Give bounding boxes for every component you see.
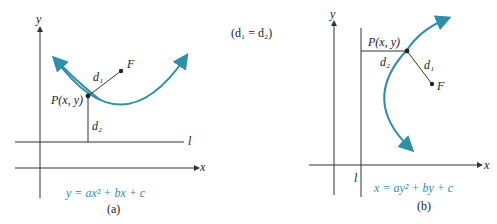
focus-label-b: F bbox=[436, 79, 445, 93]
equal-distance-label: (d₁ = d₂) bbox=[231, 26, 272, 40]
focus-label-a: F bbox=[126, 57, 135, 71]
point-label-b: P(x, y) bbox=[367, 35, 400, 49]
d1-label-b: d₁ bbox=[424, 58, 434, 72]
focus-point-a bbox=[119, 69, 123, 73]
d2-label-b: d₂ bbox=[380, 55, 390, 69]
x-axis-label-a: x bbox=[199, 160, 206, 174]
directrix-label-b: l bbox=[354, 171, 358, 185]
x-axis-label-b: x bbox=[483, 158, 490, 172]
point-p-b bbox=[405, 49, 410, 54]
caption-b: (b) bbox=[417, 199, 431, 213]
y-axis-label-a: y bbox=[35, 12, 42, 26]
focus-point-b bbox=[430, 82, 434, 86]
d1-label-a: d₁ bbox=[93, 70, 103, 84]
d2-label-a: d₂ bbox=[92, 119, 102, 133]
diagram-b: y x l F P(x, y) d₂ d₁ x = ay² + by + c (… bbox=[309, 7, 490, 213]
directrix-label-a: l bbox=[188, 134, 192, 148]
point-label-a: P(x, y) bbox=[50, 93, 83, 107]
diagram-a: y x l F P(x, y) d₁ d₂ y = ax² + bx + c (… bbox=[15, 12, 206, 216]
equation-b: x = ay² + by + c bbox=[373, 181, 454, 195]
caption-a: (a) bbox=[107, 202, 120, 216]
equation-a: y = ax² + bx + c bbox=[65, 186, 146, 200]
parabola-figure: y x l F P(x, y) d₁ d₂ y = ax² + bx + c (… bbox=[0, 0, 497, 224]
y-axis-label-b: y bbox=[329, 7, 336, 21]
point-p-a bbox=[86, 94, 91, 99]
